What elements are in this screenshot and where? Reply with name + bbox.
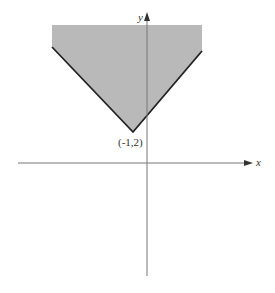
graph-canvas: y x (-1,2): [0, 0, 275, 293]
y-axis-label: y: [137, 11, 143, 23]
y-axis-arrow-icon: [144, 12, 150, 21]
x-axis-arrow-icon: [244, 160, 253, 166]
vertex-label: (-1,2): [118, 136, 143, 149]
x-axis-label: x: [255, 156, 261, 168]
